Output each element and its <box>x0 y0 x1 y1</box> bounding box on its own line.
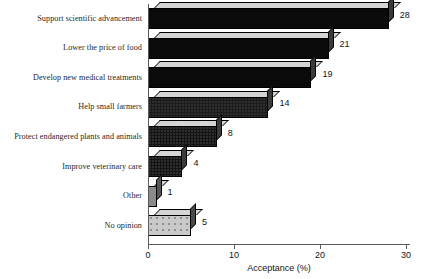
x-axis-tick-label: 30 <box>401 250 411 260</box>
bar-front-face <box>148 186 157 207</box>
x-axis-tick <box>234 245 235 249</box>
bar-value-label: 1 <box>168 187 173 197</box>
category-label: Protect endangered plants and animals <box>0 132 142 142</box>
x-axis-tick-label: 0 <box>145 250 150 260</box>
bar-value-label: 8 <box>228 128 233 138</box>
bar-front-face <box>148 97 268 118</box>
category-label: No opinion <box>0 221 142 231</box>
bar-front-face <box>148 156 182 177</box>
x-axis-tick <box>148 245 149 249</box>
bar-front-face <box>148 215 191 236</box>
bar-front-face <box>148 38 329 59</box>
bar-value-label: 28 <box>400 10 410 20</box>
x-axis-line <box>148 244 410 245</box>
bar-front-face <box>148 126 217 147</box>
category-label: Support scientific advancement <box>0 14 142 24</box>
bar-value-label: 5 <box>202 217 207 227</box>
category-label: Other <box>0 191 142 201</box>
x-axis-title: Acceptance (%) <box>148 263 410 273</box>
bar-front-face <box>148 8 389 29</box>
x-axis-tick <box>406 245 407 249</box>
category-label: Help small farmers <box>0 102 142 112</box>
plot-area: 282119148415 <box>148 0 421 245</box>
category-label-column: Support scientific advancementLower the … <box>0 0 142 245</box>
x-axis-tick-label: 20 <box>315 250 325 260</box>
category-label: Lower the price of food <box>0 43 142 53</box>
category-label: Improve veterinary care <box>0 162 142 172</box>
x-axis-tick <box>320 245 321 249</box>
bar-value-label: 4 <box>193 158 198 168</box>
bar-value-label: 19 <box>322 69 332 79</box>
bar-value-label: 21 <box>340 39 350 49</box>
bar-value-label: 14 <box>279 98 289 108</box>
category-label: Develop new medical treatments <box>0 73 142 83</box>
x-axis-tick-label: 10 <box>229 250 239 260</box>
bar-chart: Support scientific advancementLower the … <box>0 0 421 279</box>
y-axis-line <box>148 4 149 245</box>
bar-front-face <box>148 67 311 88</box>
